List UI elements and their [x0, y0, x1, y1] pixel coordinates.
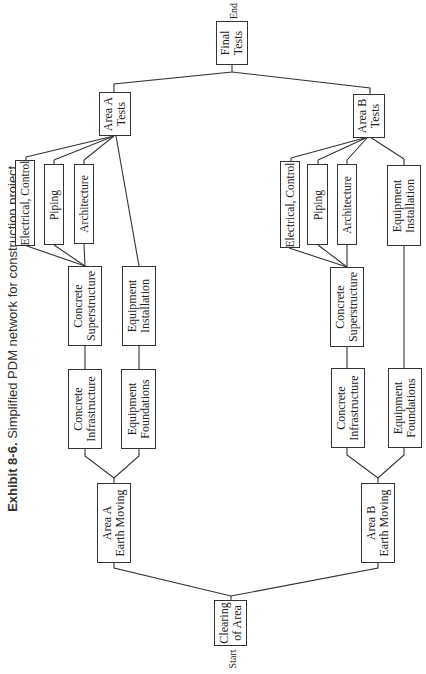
node-label: Earth Moving	[114, 490, 127, 557]
node-b-earth-moving: Area BEarth Moving	[361, 483, 395, 563]
node-label: of Area	[231, 602, 244, 643]
node-b-concrete-superstructure: ConcreteSuperstructure	[330, 267, 364, 347]
node-a-equipment-installation: EquipmentInstallation	[122, 266, 156, 346]
node-a-concrete-infrastructure: ConcreteInfrastructure	[68, 369, 102, 449]
node-label: Architecture	[78, 175, 91, 232]
node-area-b-tests: Area BTests	[353, 94, 385, 138]
node-a-piping: Piping	[44, 164, 64, 245]
node-label: Architecture	[341, 176, 354, 233]
node-area-a-tests: Area ATests	[99, 92, 131, 136]
node-label: Piping	[311, 189, 324, 219]
node-clearing-of-area: Clearingof Area	[214, 600, 247, 646]
node-label: Earth Moving	[378, 490, 391, 557]
node-a-earth-moving: Area AEarth Moving	[97, 483, 131, 563]
node-final-tests: FinalTests	[216, 21, 248, 65]
node-label: Clearing	[218, 602, 231, 643]
node-b-equipment-installation: EquipmentInstallation	[387, 165, 421, 246]
node-label: Electrical, Control	[19, 161, 32, 246]
node-a-electrical-control: Electrical, Control	[15, 160, 35, 246]
node-a-architecture: Architecture	[74, 164, 94, 244]
node-label: Electrical, Control	[284, 162, 297, 247]
node-label: Tests	[115, 97, 128, 131]
node-b-piping: Piping	[307, 164, 328, 245]
node-a-equipment-foundations: EquipmentFoundations	[121, 369, 156, 449]
start-marker: Start	[227, 650, 238, 669]
node-b-equipment-foundations: EquipmentFoundations	[388, 368, 422, 448]
node-label: Piping	[48, 189, 61, 219]
end-marker: End	[228, 3, 239, 19]
node-label: Equipment	[126, 379, 139, 438]
node-b-architecture: Architecture	[337, 164, 357, 245]
node-label: Foundations	[405, 378, 418, 437]
node-label: Installation	[404, 179, 417, 233]
node-a-concrete-superstructure: ConcreteSuperstructure	[68, 266, 102, 346]
node-label: Foundations	[139, 379, 152, 438]
node-label: Superstructure	[85, 271, 98, 341]
node-label: Superstructure	[347, 272, 360, 342]
node-label: Infrastructure	[348, 375, 361, 440]
node-label: Tests	[232, 31, 245, 56]
node-label: Installation	[139, 279, 152, 333]
node-b-concrete-infrastructure: ConcreteInfrastructure	[331, 368, 365, 448]
node-b-electrical-control: Electrical, Control	[280, 161, 300, 248]
node-label: Infrastructure	[85, 376, 98, 441]
node-label: Tests	[369, 99, 382, 133]
